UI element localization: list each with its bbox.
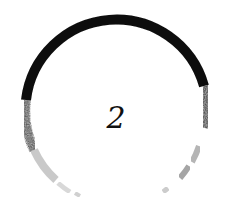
countdown-number: 2 [96, 100, 136, 136]
ring-right-dab-1 [192, 146, 199, 162]
ring-right-dab-2 [180, 166, 189, 178]
ring-right-dab-3 [163, 188, 168, 192]
ring-left-fade-tail [34, 150, 56, 180]
countdown-frame: 2 [0, 0, 230, 218]
ring-solid-arc [26, 20, 204, 100]
ring-left-dab [58, 183, 70, 192]
